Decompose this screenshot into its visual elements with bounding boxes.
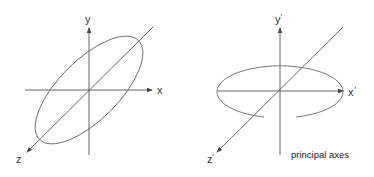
left-z-label: z [16,153,22,165]
left-panel-tilted-ellipse: y x z [16,13,163,165]
left-z-axis [27,27,153,152]
right-panel-principal-axes: y′ x′ z′ principal axes [207,12,357,165]
principal-axes-caption: principal axes [291,149,349,160]
right-x-label: x′ [348,85,357,98]
left-y-label: y [85,13,91,25]
right-z-label: z′ [207,152,215,165]
right-y-label: y′ [275,12,283,25]
ellipsoid-axes-diagram: y x z y′ x′ z′ principal axes [0,0,374,177]
left-x-label: x [157,84,163,96]
